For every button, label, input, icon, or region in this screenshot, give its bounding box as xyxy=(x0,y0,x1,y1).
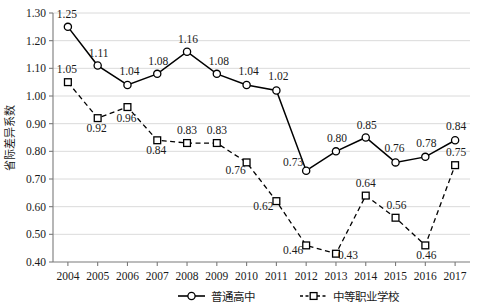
data-point-marker xyxy=(452,137,459,144)
data-point-marker xyxy=(452,162,459,169)
x-tick-label: 2017 xyxy=(444,270,467,282)
x-tick-label: 2006 xyxy=(116,270,139,282)
data-point-label: 0.73 xyxy=(283,156,303,168)
data-point-marker xyxy=(184,140,191,147)
y-tick-label: 0.40 xyxy=(26,256,46,268)
data-point-marker xyxy=(183,48,190,55)
data-point-label: 0.62 xyxy=(253,200,273,212)
data-point-label: 0.76 xyxy=(226,164,246,176)
data-point-label: 1.11 xyxy=(89,47,109,59)
data-point-marker xyxy=(64,23,71,30)
y-axis: 0.400.500.600.700.800.901.001.101.201.30 xyxy=(26,7,53,268)
data-point-label: 1.16 xyxy=(178,33,198,45)
data-point-marker xyxy=(273,87,280,94)
y-tick-label: 0.90 xyxy=(26,118,46,130)
data-point-label: 0.83 xyxy=(177,124,197,136)
data-point-label: 0.84 xyxy=(146,144,166,156)
legend-label: 中等职业学校 xyxy=(333,290,400,304)
data-point-label: 0.64 xyxy=(356,177,376,189)
data-point-label: 0.84 xyxy=(446,120,466,132)
x-tick-label: 2010 xyxy=(235,270,258,282)
x-tick-label: 2012 xyxy=(295,270,318,282)
x-tick-label: 2013 xyxy=(324,270,347,282)
data-point-label: 0.85 xyxy=(357,119,377,131)
y-axis-title: 省际差异系数 xyxy=(3,105,17,171)
data-point-label: 0.78 xyxy=(416,137,436,149)
x-tick-label: 2004 xyxy=(56,270,79,282)
data-point-label: 0.92 xyxy=(87,122,107,134)
data-point-marker xyxy=(362,134,369,141)
data-point-marker xyxy=(392,159,399,166)
data-labels: 1.251.111.041.081.161.081.041.020.730.80… xyxy=(57,8,467,262)
x-tick-label: 2015 xyxy=(384,270,407,282)
data-point-label: 0.96 xyxy=(116,112,136,124)
data-point-label: 1.05 xyxy=(57,63,77,75)
data-point-marker xyxy=(154,137,161,144)
x-tick-label: 2005 xyxy=(86,270,109,282)
data-point-label: 0.43 xyxy=(338,249,358,261)
data-point-label: 1.04 xyxy=(239,65,259,77)
data-point-marker xyxy=(124,104,131,111)
data-point-marker xyxy=(94,62,101,69)
x-tick-label: 2011 xyxy=(265,270,288,282)
data-point-marker xyxy=(303,167,310,174)
legend-item-2[interactable]: 中等职业学校 xyxy=(300,290,400,304)
data-point-label: 0.75 xyxy=(446,146,466,158)
data-point-label: 0.56 xyxy=(386,199,406,211)
data-point-marker xyxy=(422,242,429,249)
data-point-label: 0.46 xyxy=(416,249,436,261)
data-point-marker xyxy=(64,79,71,86)
data-point-marker xyxy=(392,214,399,221)
data-point-label: 1.02 xyxy=(268,70,288,82)
y-tick-label: 0.60 xyxy=(26,201,46,213)
y-tick-label: 0.50 xyxy=(26,228,46,240)
data-point-marker xyxy=(213,70,220,77)
data-point-label: 1.08 xyxy=(148,55,168,67)
data-point-marker xyxy=(243,81,250,88)
x-tick-label: 2008 xyxy=(176,270,199,282)
data-point-marker xyxy=(362,192,369,199)
legend-square-marker xyxy=(310,293,317,300)
data-point-marker xyxy=(303,242,310,249)
data-point-marker xyxy=(332,148,339,155)
y-tick-label: 1.10 xyxy=(26,62,46,74)
data-point-label: 0.80 xyxy=(327,132,347,144)
x-tick-label: 2016 xyxy=(414,270,437,282)
data-point-marker xyxy=(273,198,280,205)
data-point-marker xyxy=(213,140,220,147)
data-point-label: 0.76 xyxy=(384,142,404,154)
y-tick-label: 0.80 xyxy=(26,145,46,157)
chart-legend: 普通高中中等职业学校 xyxy=(178,290,400,304)
y-tick-label: 0.70 xyxy=(26,173,46,185)
data-point-label: 1.08 xyxy=(209,55,229,67)
x-axis: 2004200520062007200820092010201120122013… xyxy=(53,262,470,282)
data-point-marker xyxy=(154,70,161,77)
data-point-label: 1.04 xyxy=(119,65,139,77)
data-point-marker xyxy=(124,81,131,88)
y-axis-title-text: 省际差异系数 xyxy=(3,105,17,171)
x-tick-label: 2009 xyxy=(205,270,228,282)
legend-label: 普通高中 xyxy=(211,290,255,304)
data-point-label: 0.46 xyxy=(283,244,303,256)
x-tick-label: 2007 xyxy=(146,270,169,282)
chart-canvas: 0.400.500.600.700.800.901.001.101.201.30… xyxy=(0,0,483,308)
data-point-marker xyxy=(94,115,101,122)
x-tick-label: 2014 xyxy=(354,270,377,282)
data-point-label: 0.83 xyxy=(207,124,227,136)
line-chart: 0.400.500.600.700.800.901.001.101.201.30… xyxy=(0,0,483,308)
legend-item-1[interactable]: 普通高中 xyxy=(178,290,255,304)
data-point-marker xyxy=(422,153,429,160)
legend-circle-marker xyxy=(188,292,195,299)
series-group xyxy=(64,23,458,257)
y-tick-label: 1.00 xyxy=(26,90,46,102)
y-tick-label: 1.20 xyxy=(26,35,46,47)
y-tick-label: 1.30 xyxy=(26,7,46,19)
data-point-label: 1.25 xyxy=(57,8,77,20)
